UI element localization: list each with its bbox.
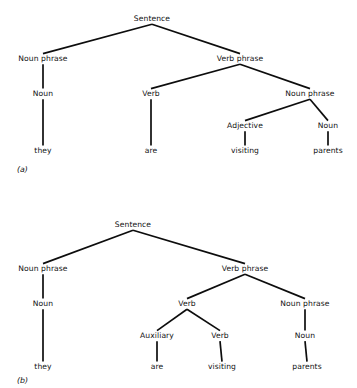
- tree-node-label: Sentence: [134, 14, 171, 23]
- tree-leaf-word: visiting: [208, 362, 236, 371]
- tree-edge: [245, 99, 310, 120]
- tree-leaf-word: they: [34, 362, 52, 371]
- tree-node-label: Noun phrase: [18, 264, 68, 273]
- tree-node-label: Adjective: [227, 121, 263, 130]
- tree-edge: [43, 24, 152, 53]
- tree-node-label: Auxiliary: [140, 331, 174, 340]
- tree-node-label: Noun: [33, 89, 53, 98]
- tree-node-label: Noun phrase: [18, 54, 68, 63]
- tree-edge: [220, 341, 222, 361]
- tree-node-label: Verb phrase: [222, 264, 269, 273]
- tree-edges-layer: [43, 24, 328, 361]
- tree-node-label: Noun phrase: [285, 89, 335, 98]
- tree-edge: [151, 64, 240, 88]
- parse-tree-figure: SentenceNoun phraseVerb phraseNounVerbNo…: [0, 0, 357, 388]
- tree-leaf-word: parents: [313, 146, 342, 155]
- tree-edge: [240, 64, 310, 88]
- tree-node-label: Verb: [178, 299, 196, 308]
- tree-leaf-word: are: [151, 362, 164, 371]
- tree-node-label: Noun phrase: [280, 299, 330, 308]
- tree-node-label: Verb phrase: [217, 54, 264, 63]
- tree-leaf-word: parents: [292, 362, 321, 371]
- panel-caption-a: (a): [17, 165, 28, 174]
- tree-edge: [152, 24, 240, 53]
- tree-edge: [133, 230, 245, 263]
- tree-nodes-layer: SentenceNoun phraseVerb phraseNounVerbNo…: [18, 14, 342, 371]
- tree-edge: [43, 230, 133, 263]
- tree-node-label: Noun: [318, 121, 338, 130]
- tree-node-label: Noun: [33, 299, 53, 308]
- tree-node-label: Sentence: [115, 220, 152, 229]
- tree-node-label: Verb: [211, 331, 229, 340]
- tree-edge: [187, 274, 245, 298]
- tree-edge: [245, 274, 305, 298]
- tree-edge: [187, 309, 220, 330]
- tree-leaf-word: visiting: [231, 146, 259, 155]
- tree-leaf-word: are: [145, 146, 158, 155]
- tree-node-label: Noun: [295, 331, 315, 340]
- tree-leaf-word: they: [34, 146, 52, 155]
- panel-captions-layer: (a)(b): [17, 165, 28, 385]
- panel-caption-b: (b): [17, 376, 28, 385]
- tree-node-label: Verb: [142, 89, 160, 98]
- parse-tree-canvas: SentenceNoun phraseVerb phraseNounVerbNo…: [0, 0, 357, 388]
- tree-edge: [157, 309, 187, 330]
- tree-edge: [305, 341, 307, 361]
- tree-edge: [310, 99, 328, 120]
